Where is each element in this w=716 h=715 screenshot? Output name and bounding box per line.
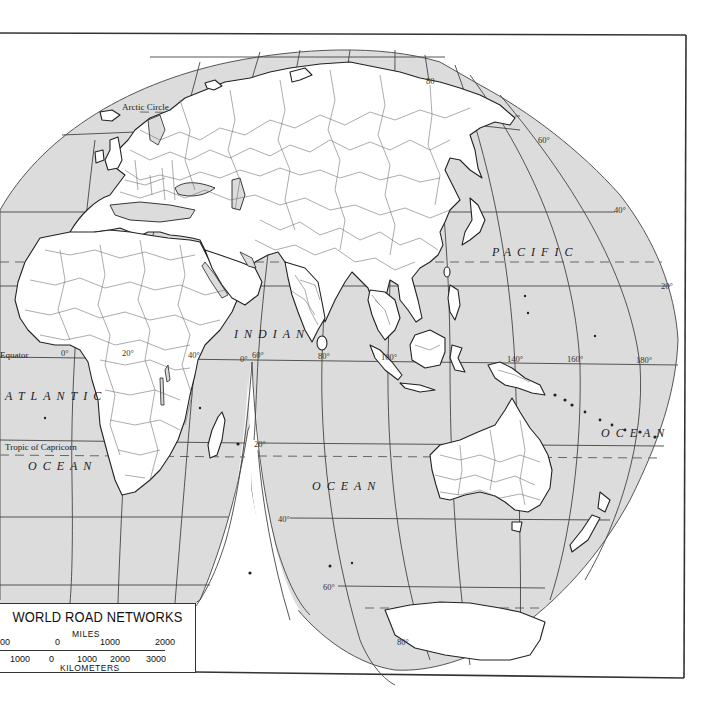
miles-tick-partial: 00 xyxy=(0,637,10,647)
km-tick-1000-neg: 1000 xyxy=(10,654,30,664)
deg-lat-80s: 80° xyxy=(397,637,409,647)
deg-lon-80: 80° xyxy=(318,351,330,361)
label-pacific: PACIFIC xyxy=(491,245,578,259)
island-taiwan xyxy=(444,267,450,277)
scale-kilometers-label: KILOMETERS xyxy=(60,663,120,673)
island-ireland xyxy=(95,150,104,163)
legend-title: WORLD ROAD NETWORKS xyxy=(8,609,187,625)
label-equator: Equator xyxy=(0,350,29,360)
label-atlantic: ATLANTIC xyxy=(4,389,107,403)
deg-lon-40: 40° xyxy=(188,350,200,360)
island-sri-lanka xyxy=(317,336,327,350)
label-indian: INDIAN xyxy=(233,327,310,341)
miles-tick-2000: 2000 xyxy=(155,637,175,647)
deg-lat-20s: 20° xyxy=(254,439,266,449)
deg-lon-160: 160° xyxy=(567,354,583,364)
km-tick-3000: 3000 xyxy=(146,654,166,664)
label-pacific-ocean: OCEAN xyxy=(601,426,670,440)
scale-bar xyxy=(0,650,165,651)
miles-tick-0: 0 xyxy=(55,637,60,647)
deg-lon-60: 60° xyxy=(252,350,264,360)
deg-lat-20n: 20° xyxy=(661,281,673,291)
deg-lat-60n: 60° xyxy=(538,135,550,145)
lake-tanganyika xyxy=(160,378,164,405)
label-atlantic-ocean: OCEAN xyxy=(28,459,97,473)
deg-lat-80n: 80 xyxy=(426,76,435,86)
deg-lon-0: 0° xyxy=(61,348,69,358)
deg-lon-100: 100° xyxy=(381,352,397,362)
deg-lat-60s: 60° xyxy=(323,582,335,592)
frame-top xyxy=(0,33,686,35)
deg-lat-0: 0° xyxy=(240,354,248,364)
scale-miles-label: MILES xyxy=(72,629,100,639)
legend-box: WORLD ROAD NETWORKS MILES 00 0 1000 2000… xyxy=(0,603,196,673)
deg-lat-40s: 40° xyxy=(278,514,290,524)
km-tick-0: 0 xyxy=(49,654,54,664)
miles-tick-1000: 1000 xyxy=(100,637,120,647)
frame-bottom xyxy=(195,672,684,678)
label-indian-ocean: OCEAN xyxy=(312,479,381,493)
island-tasmania xyxy=(512,522,522,532)
label-arctic-circle: Arctic Circle xyxy=(122,102,169,112)
deg-lat-40n: 40° xyxy=(614,205,626,215)
label-tropic-capricorn: Tropic of Capricorn xyxy=(5,442,77,452)
frame-right xyxy=(684,35,686,678)
deg-lon-20: 20° xyxy=(122,348,134,358)
deg-lon-180: 180° xyxy=(636,355,652,365)
deg-lon-140: 140° xyxy=(507,354,523,364)
